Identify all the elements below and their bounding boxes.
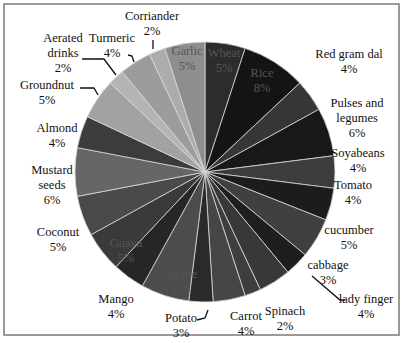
data-label-percent: 6% (31, 193, 73, 208)
data-label-name: Soyabeans (331, 146, 384, 161)
data-label: Mango4% (98, 292, 133, 322)
data-label: Groundnut5% (20, 78, 74, 108)
data-label-name: Potato (165, 311, 197, 326)
data-label-name: Spinach (265, 304, 305, 319)
data-label-percent: 6% (330, 126, 383, 141)
data-label-name: Red gram dal (315, 47, 382, 62)
data-label: Carrot4% (230, 309, 262, 339)
data-label-percent: 4% (334, 193, 372, 208)
data-label-name: Groundnut (20, 78, 74, 93)
data-label: Guava5% (110, 236, 143, 266)
data-label-percent: 4% (89, 46, 135, 61)
data-label-name: Corriander (125, 9, 179, 24)
data-label: Red gram dal4% (315, 47, 382, 77)
data-label-percent: 5% (37, 240, 79, 255)
data-label-name: Almond (37, 121, 78, 136)
data-label-percent: 4% (37, 136, 78, 151)
data-label-name: cabbage (308, 258, 349, 273)
data-label: Rice8% (251, 66, 274, 96)
data-label: lady finger4% (339, 292, 394, 322)
data-label-percent: 4% (98, 307, 133, 322)
data-label-percent: 4% (331, 161, 384, 176)
leader-line (197, 310, 208, 320)
data-label: Pulses andlegumes6% (330, 96, 383, 141)
data-label-percent: 2% (43, 61, 83, 76)
data-label-name: Rice (251, 66, 274, 81)
leader-line (80, 88, 98, 95)
data-label-percent: 5% (208, 61, 241, 76)
data-label: Wheat5% (208, 46, 241, 76)
leader-line (82, 59, 116, 75)
data-label-percent: 4% (315, 62, 382, 77)
data-label-name: Aerated (43, 31, 83, 46)
data-label-name: lady finger (339, 292, 394, 307)
data-label: Coconut5% (37, 225, 79, 255)
data-label-name: Coconut (37, 225, 79, 240)
data-label-percent: 6% (167, 282, 198, 297)
data-label: Potato3% (165, 311, 197, 341)
data-label: cucumber5% (324, 223, 373, 253)
data-label: Apple6% (167, 267, 198, 297)
data-label-name: Wheat (208, 46, 241, 61)
data-label: Almond4% (37, 121, 78, 151)
data-label-percent: 4% (230, 324, 262, 339)
data-label-percent: 5% (110, 251, 143, 266)
data-label: Mustardseeds6% (31, 163, 73, 208)
data-label-name: Mango (98, 292, 133, 307)
data-label-percent: 2% (125, 24, 179, 39)
data-label: Soyabeans4% (331, 146, 384, 176)
data-label-name-line2: legumes (330, 111, 383, 126)
data-label-name: Pulses and (330, 96, 383, 111)
data-label-name: Guava (110, 236, 143, 251)
data-label-name-line2: seeds (31, 178, 73, 193)
data-label-percent: 2% (265, 319, 305, 334)
data-label-name: Carrot (230, 309, 262, 324)
data-label: Garlic5% (171, 44, 202, 74)
data-label-percent: 3% (165, 326, 197, 341)
data-label: Spinach2% (265, 304, 305, 334)
data-label-percent: 4% (339, 307, 394, 322)
data-label-name: Tomato (334, 178, 372, 193)
data-label: Aerateddrinks2% (43, 31, 83, 76)
data-label: Tomato4% (334, 178, 372, 208)
data-label-percent: 5% (324, 238, 373, 253)
data-label-name: Garlic (171, 44, 202, 59)
data-label-name: Mustard (31, 163, 73, 178)
data-label-percent: 3% (308, 273, 349, 288)
data-label-percent: 5% (20, 93, 74, 108)
data-label: Corriander2% (125, 9, 179, 39)
data-label: cabbage3% (308, 258, 349, 288)
data-label-percent: 5% (171, 59, 202, 74)
data-label-percent: 8% (251, 81, 274, 96)
data-label-name-line2: drinks (43, 46, 83, 61)
data-label-name: Apple (167, 267, 198, 282)
data-label-name: cucumber (324, 223, 373, 238)
